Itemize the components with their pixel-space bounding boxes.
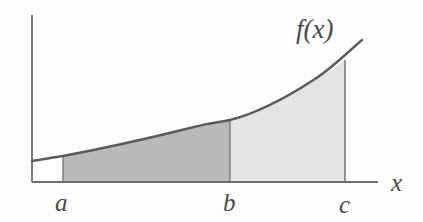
x-axis-label: x bbox=[391, 170, 402, 195]
tick-label-c: c bbox=[339, 192, 350, 217]
area-under-curve-diagram: a b c x f(x) bbox=[0, 0, 423, 222]
region-b-to-c bbox=[230, 60, 345, 182]
tick-label-b: b bbox=[223, 190, 236, 215]
function-label: f(x) bbox=[296, 16, 333, 43]
tick-label-a: a bbox=[55, 190, 68, 215]
